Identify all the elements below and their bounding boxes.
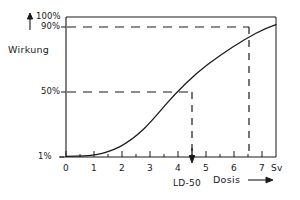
y-tick-label-1: 1% [38, 152, 52, 161]
x-tick-label-4: 4 [175, 164, 181, 173]
x-axis-unit-label: Sv [271, 164, 282, 173]
x-tick-label-5: 5 [203, 164, 209, 173]
y-tick-label-100: 100% [36, 12, 61, 21]
x-tick-marks [66, 151, 262, 157]
y-tick-label-50: 50% [41, 87, 60, 96]
x-axis-title: Dosis [213, 175, 240, 185]
x-tick-label-2: 2 [119, 164, 125, 173]
ld50-marker-arrow-icon [189, 148, 194, 163]
x-tick-label-1: 1 [91, 164, 97, 173]
y-axis-arrow-icon [27, 13, 32, 30]
y-axis-title: Wirkung [8, 45, 49, 55]
y-tick-label-90: 90% [41, 22, 60, 31]
dose-response-curve [66, 25, 276, 157]
x-tick-label-0: 0 [63, 164, 69, 173]
x-tick-label-7: 7 [259, 164, 265, 173]
x-tick-label-3: 3 [147, 164, 153, 173]
plot-frame [60, 17, 276, 157]
x-tick-label-6: 6 [231, 164, 237, 173]
chart-figure: 100% 90% 50% 1% Wirkung 0 1 2 3 4 5 6 7 … [0, 0, 300, 200]
x-axis-arrow-icon [248, 177, 273, 183]
ld50-annotation-label: LD-50 [173, 179, 201, 188]
